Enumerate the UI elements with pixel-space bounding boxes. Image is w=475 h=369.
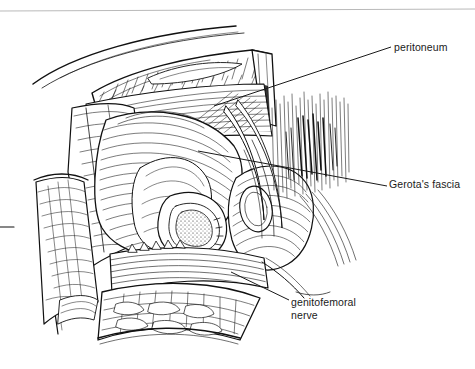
label-genitofemoral-line2: nerve <box>291 309 318 321</box>
label-gerotas-fascia: Gerota's fascia <box>389 178 460 191</box>
label-peritoneum: peritoneum <box>394 41 448 54</box>
label-genitofemoral-line1: genitofemoral <box>291 296 356 308</box>
lower-left-detail <box>58 296 98 325</box>
bottom-flap <box>98 283 260 344</box>
illustration-page: peritoneum Gerota's fascia genitofemoral… <box>0 0 475 369</box>
label-genitofemoral-nerve: genitofemoralnerve <box>291 296 356 322</box>
top-rule <box>0 9 475 11</box>
